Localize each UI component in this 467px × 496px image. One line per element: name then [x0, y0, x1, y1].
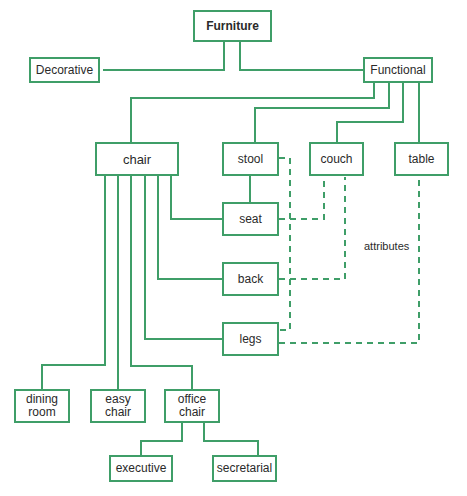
- node-dining-room: dining room: [14, 389, 70, 423]
- node-decorative-label: Decorative: [36, 64, 93, 77]
- node-couch: couch: [309, 142, 364, 176]
- attributes-annotation: attributes: [364, 240, 409, 252]
- node-furniture: Furniture: [193, 10, 272, 42]
- node-executive: executive: [109, 455, 173, 482]
- node-executive-label: executive: [116, 462, 167, 475]
- node-back-label: back: [238, 273, 263, 286]
- node-dining-room-line2: room: [28, 406, 55, 419]
- node-seat: seat: [222, 202, 279, 236]
- node-table: table: [394, 142, 449, 176]
- node-chair: chair: [95, 142, 179, 176]
- node-back: back: [222, 262, 279, 296]
- node-easy-chair-line2: chair: [105, 406, 131, 419]
- node-legs-label: legs: [239, 333, 261, 346]
- node-seat-label: seat: [239, 213, 262, 226]
- node-secretarial-label: secretarial: [217, 462, 272, 475]
- node-legs: legs: [222, 322, 279, 356]
- node-functional: Functional: [363, 57, 433, 83]
- node-secretarial: secretarial: [212, 455, 277, 482]
- node-office-chair-line2: chair: [179, 406, 205, 419]
- node-functional-label: Functional: [370, 64, 425, 77]
- node-stool-label: stool: [238, 153, 263, 166]
- node-chair-label: chair: [123, 153, 151, 166]
- node-office-chair: office chair: [164, 389, 220, 423]
- node-decorative: Decorative: [29, 57, 100, 83]
- node-table-label: table: [408, 153, 434, 166]
- node-stool: stool: [222, 142, 279, 176]
- node-easy-chair: easy chair: [90, 389, 146, 423]
- node-couch-label: couch: [320, 153, 352, 166]
- node-furniture-label: Furniture: [206, 20, 259, 33]
